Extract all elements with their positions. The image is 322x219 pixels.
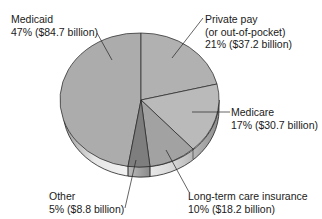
label-medicare-value: 17% ($30.7 billion) [231, 119, 318, 132]
label-other-value: 5% ($8.8 billion) [49, 203, 124, 216]
label-private-pay-sub: (or out-of-pocket) [205, 26, 292, 39]
label-medicaid: Medicaid 47% ($84.7 billion) [11, 13, 98, 38]
label-private-pay-name: Private pay [205, 13, 292, 26]
slice-medicaid [60, 33, 141, 166]
label-ltc-value: 10% ($18.2 billion) [188, 203, 308, 216]
label-other: Other 5% ($8.8 billion) [49, 190, 124, 215]
label-private-pay-value: 21% ($37.2 billion) [205, 38, 292, 51]
label-medicare-name: Medicare [231, 106, 318, 119]
label-medicaid-name: Medicaid [11, 13, 98, 26]
label-medicare: Medicare 17% ($30.7 billion) [231, 106, 318, 131]
pie-top [60, 33, 219, 167]
label-private-pay: Private pay (or out-of-pocket) 21% ($37.… [205, 13, 292, 51]
label-long-term-care: Long-term care insurance 10% ($18.2 bill… [188, 190, 308, 215]
label-ltc-name: Long-term care insurance [188, 190, 308, 203]
label-medicaid-value: 47% ($84.7 billion) [11, 26, 98, 39]
label-other-name: Other [49, 190, 124, 203]
